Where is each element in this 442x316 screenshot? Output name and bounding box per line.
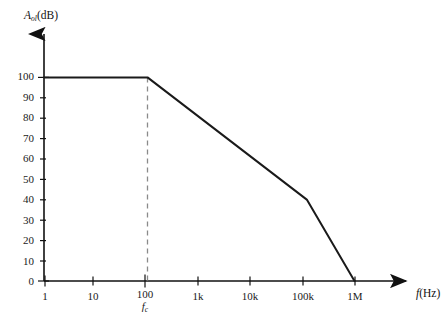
x-axis-title-unit: (Hz) xyxy=(419,287,440,299)
bode-plot-figure: Aol(dB) f(Hz) 100 90 80 70 60 50 40 30 2… xyxy=(0,0,442,316)
y-tick-label-90: 90 xyxy=(2,92,34,103)
x-tick-label-1k: 1k xyxy=(178,291,218,302)
plot-canvas xyxy=(0,0,442,316)
y-tick-label-30: 30 xyxy=(2,215,34,226)
x-tick-label-10k: 10k xyxy=(230,291,270,302)
x-tick-label-10: 10 xyxy=(73,291,113,302)
x-tick-label-1M: 1M xyxy=(335,291,375,302)
y-axis-title: Aol(dB) xyxy=(24,10,58,22)
y-tick-label-100: 100 xyxy=(2,71,34,82)
x-tick-label-1: 1 xyxy=(25,291,65,302)
cutoff-frequency-label-subscript: c xyxy=(145,305,148,314)
y-axis-title-unit: (dB) xyxy=(37,9,58,21)
x-tick-label-100k: 100k xyxy=(283,291,323,302)
x-tick-label-100: 100 xyxy=(125,289,165,300)
y-tick-label-50: 50 xyxy=(2,174,34,185)
x-axis-title: f(Hz) xyxy=(416,288,440,300)
y-tick-label-10: 10 xyxy=(2,256,34,267)
y-tick-label-60: 60 xyxy=(2,153,34,164)
cutoff-frequency-label: fc xyxy=(125,301,165,313)
open-loop-gain-curve xyxy=(44,77,355,281)
y-tick-label-0: 0 xyxy=(2,276,34,287)
y-tick-label-20: 20 xyxy=(2,235,34,246)
y-tick-label-80: 80 xyxy=(2,112,34,123)
y-axis-title-symbol: A xyxy=(24,9,31,21)
y-tick-label-70: 70 xyxy=(2,133,34,144)
y-tick-label-40: 40 xyxy=(2,194,34,205)
